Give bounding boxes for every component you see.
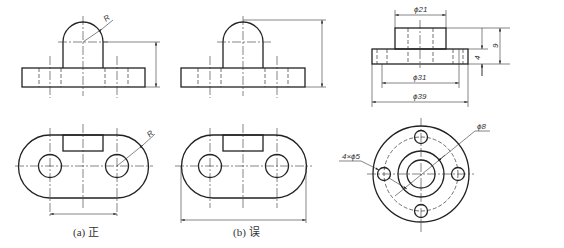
panel-a-top-view: R (a) 正 (15, 124, 156, 239)
dim-bolt-circle: ϕ31 (413, 73, 426, 82)
panel-b-top-view: (b) 误 (175, 124, 312, 239)
radius-label-top: R (145, 128, 155, 139)
dim-flange-thickness: 4 (473, 55, 482, 60)
engineering-drawing: R R (a) 正 (0, 0, 564, 248)
dim-holes: 4×ϕ5 (342, 152, 361, 161)
caption-a: (a) 正 (73, 226, 99, 239)
dim-total-height: 9 (491, 43, 500, 48)
caption-b: (b) 误 (233, 226, 260, 239)
dim-boss-diameter: ϕ21 (414, 5, 427, 14)
dim-flange-diameter: ϕ39 (413, 92, 427, 101)
dim-bore-diameter: ϕ8 (477, 122, 486, 131)
panel-b-front-view (181, 16, 326, 98)
panel-c-top-view: ϕ8 4×ϕ5 (339, 118, 490, 232)
panel-c-front-view: ϕ21 ϕ31 ϕ39 4 9 (372, 5, 510, 107)
panel-a-front-view: R (22, 13, 160, 98)
